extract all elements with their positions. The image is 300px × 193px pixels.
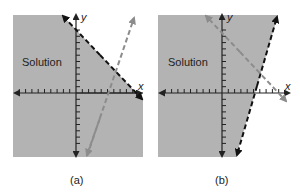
figure: Solution y x (a) (0, 0, 300, 193)
solution-label-b: Solution (168, 56, 208, 68)
x-axis-label-b: x (284, 80, 291, 92)
solution-label-a: Solution (22, 56, 62, 68)
solution-region-b (158, 15, 278, 157)
panel-a: Solution y x (a) (13, 11, 144, 186)
x-axis-label-a: x (137, 80, 144, 92)
caption-b: (b) (215, 174, 228, 186)
panel-b: Solution y x (b) (158, 11, 291, 186)
caption-a: (a) (70, 174, 83, 186)
y-axis-label-a: y (80, 11, 88, 23)
